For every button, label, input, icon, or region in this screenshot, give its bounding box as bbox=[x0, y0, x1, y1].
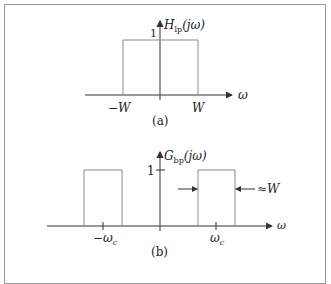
b-caption: (b) bbox=[151, 245, 168, 259]
b-wc-label: ωc bbox=[210, 231, 225, 247]
b-neg-wc-label: −ωc bbox=[93, 231, 118, 247]
b-function-label: Gbp(jω) bbox=[164, 149, 207, 165]
b-left-band-rect bbox=[84, 170, 122, 226]
b-right-band-rect bbox=[198, 170, 235, 226]
a-neg-w-label: −W bbox=[108, 101, 132, 115]
a-height-label: 1 bbox=[150, 27, 157, 40]
b-width-annotation: ≈W bbox=[257, 182, 281, 196]
a-omega-label: ω bbox=[238, 88, 248, 102]
b-height-label: 1 bbox=[147, 164, 155, 178]
a-function-label: Hlp(jω) bbox=[163, 18, 205, 34]
a-w-label: W bbox=[192, 101, 206, 115]
a-caption: (a) bbox=[152, 114, 169, 128]
b-omega-label: ω bbox=[277, 219, 286, 232]
figure-a-lowpass: 1 Hlp(jω) ω −W W (a) bbox=[85, 18, 248, 128]
figure-b-bandpass: 1 Gbp(jω) ≈W ω −ωc ωc (b) bbox=[47, 149, 286, 259]
